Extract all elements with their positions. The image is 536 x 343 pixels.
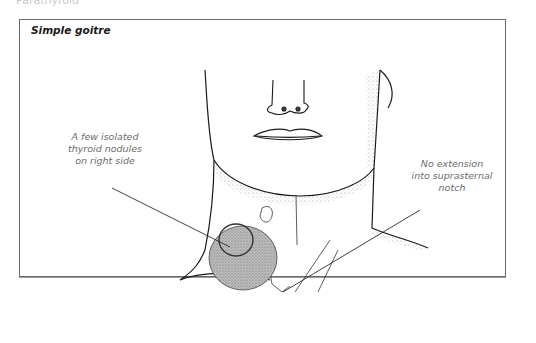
- annotation-line: on right side: [50, 155, 160, 167]
- annotation-line: No extension: [400, 158, 504, 170]
- leader-line-right: [283, 210, 420, 292]
- annotation-line: thyroid nodules: [50, 143, 160, 155]
- goitre-mass: [209, 224, 277, 290]
- face-shading: [214, 70, 428, 250]
- nose: [268, 80, 309, 114]
- annotation-line: into suprasternal: [400, 170, 504, 182]
- annotation-line: A few isolated: [50, 131, 160, 143]
- mouth: [254, 129, 322, 140]
- annotation-line: notch: [400, 182, 504, 194]
- annotation-suprasternal-notch: No extension into suprasternal notch: [400, 158, 504, 194]
- annotation-thyroid-nodules: A few isolated thyroid nodules on right …: [50, 131, 160, 167]
